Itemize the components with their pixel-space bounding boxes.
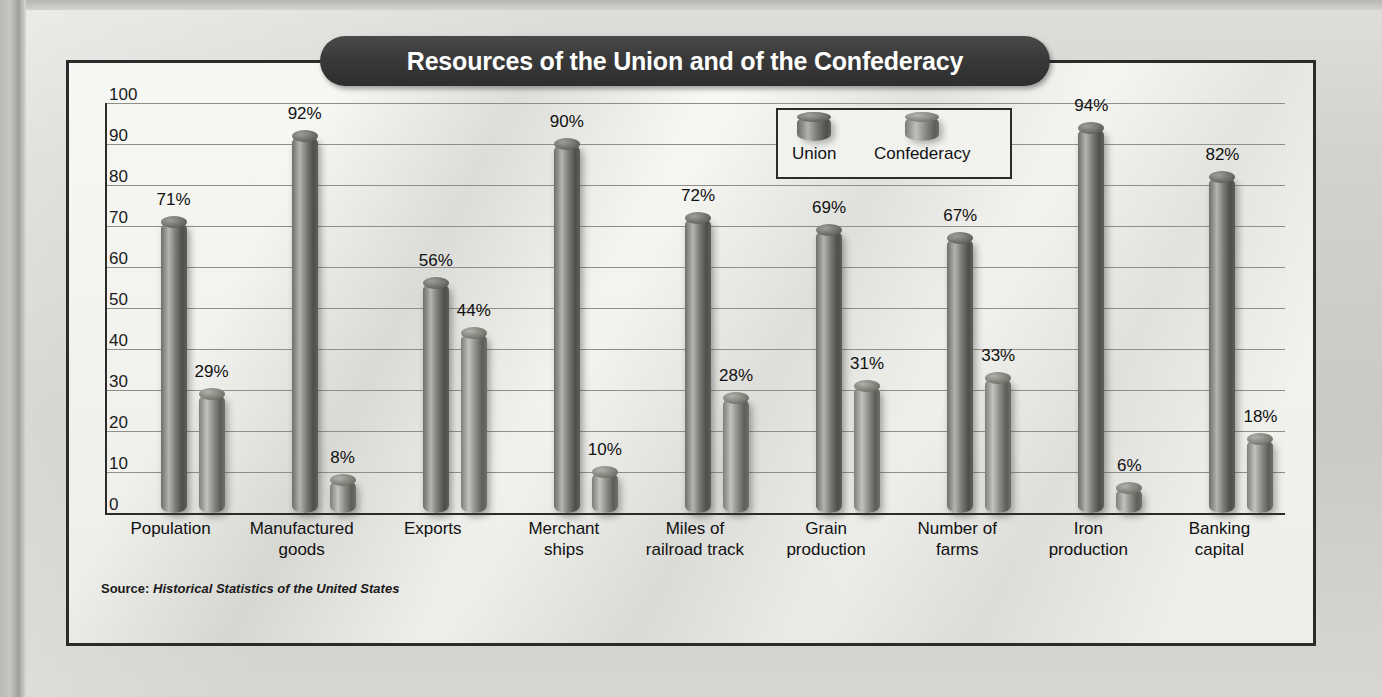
bar-confederacy — [461, 333, 487, 513]
bar-confederacy — [723, 398, 749, 513]
bar-cap — [592, 466, 618, 478]
category-label: Miles ofrailroad track — [619, 518, 770, 561]
bar-value-label: 6% — [1117, 456, 1142, 476]
bar-cap — [199, 388, 225, 400]
bar-cap — [461, 327, 487, 339]
bar-cap — [723, 392, 749, 404]
category-label-line: Number of — [882, 518, 1033, 539]
category-label-line: production — [751, 539, 902, 560]
bar-union — [554, 144, 580, 513]
category-label-line: Manufactured — [226, 518, 377, 539]
bar-cap — [292, 130, 318, 142]
bar-value-label: 82% — [1205, 145, 1239, 165]
bar-value-label: 29% — [195, 362, 229, 382]
bar-union — [1078, 128, 1104, 513]
bar-value-label: 72% — [681, 186, 715, 206]
bar-value-label: 94% — [1074, 96, 1108, 116]
bar-cap — [1247, 433, 1273, 445]
category-label-line: Exports — [357, 518, 508, 539]
legend-item-confederacy: Confederacy — [874, 116, 970, 164]
bar-cap — [985, 372, 1011, 384]
chart-title: Resources of the Union and of the Confed… — [320, 36, 1050, 86]
bar-column: 56% — [423, 103, 449, 513]
legend-swatch-union — [797, 116, 831, 141]
bar-value-label: 31% — [850, 354, 884, 374]
source-label: Source: — [101, 581, 149, 596]
bar-union — [423, 283, 449, 513]
bar-union — [816, 230, 842, 513]
bar-cap — [1116, 482, 1142, 494]
category-label-line: capital — [1144, 539, 1295, 560]
bar-cap — [161, 216, 187, 228]
bar-union — [1209, 177, 1235, 513]
bar-confederacy — [199, 394, 225, 513]
plot-area: 1009080706050403020100 71%29%92%8%56%44%… — [105, 103, 1285, 513]
bar-value-label: 44% — [457, 301, 491, 321]
category-label: Ironproduction — [1013, 518, 1164, 561]
source-value: Historical Statistics of the United Stat… — [153, 581, 399, 596]
category-label-line: Iron — [1013, 518, 1164, 539]
bar-value-label: 33% — [981, 346, 1015, 366]
source-note: Source: Historical Statistics of the Uni… — [101, 581, 399, 596]
category-label: Population — [95, 518, 246, 539]
bar-value-label: 90% — [550, 112, 584, 132]
gridline — [105, 513, 1285, 515]
category-label-line: Miles of — [619, 518, 770, 539]
category-label: Grainproduction — [751, 518, 902, 561]
bar-column: 8% — [330, 103, 356, 513]
bar-union — [292, 136, 318, 513]
category-label: Number offarms — [882, 518, 1033, 561]
category-label-line: Banking — [1144, 518, 1295, 539]
bar-union — [685, 218, 711, 513]
bar-value-label: 18% — [1243, 407, 1277, 427]
bar-confederacy — [592, 472, 618, 513]
category-label-line: ships — [488, 539, 639, 560]
bar-column: 29% — [199, 103, 225, 513]
bar-column: 18% — [1247, 103, 1273, 513]
bar-cap — [947, 232, 973, 244]
page-edge-left — [0, 0, 26, 697]
category-label-line: railroad track — [619, 539, 770, 560]
bar-column: 94% — [1078, 103, 1104, 513]
bar-cap — [1209, 171, 1235, 183]
legend-label: Union — [792, 144, 836, 164]
bar-value-label: 92% — [288, 104, 322, 124]
category-label-line: Population — [95, 518, 246, 539]
bar-value-label: 10% — [588, 440, 622, 460]
page-edge-top — [0, 0, 1382, 10]
category-axis-labels: PopulationManufacturedgoodsExportsMercha… — [105, 518, 1285, 580]
bar-column: 82% — [1209, 103, 1235, 513]
category-label: Exports — [357, 518, 508, 539]
bar-column: 71% — [161, 103, 187, 513]
category-label-line: goods — [226, 539, 377, 560]
bar-cap — [816, 224, 842, 236]
bar-cap — [330, 474, 356, 486]
bar-column: 72% — [685, 103, 711, 513]
chart-panel: 1009080706050403020100 71%29%92%8%56%44%… — [66, 60, 1316, 646]
bar-column: 92% — [292, 103, 318, 513]
bar-value-label: 56% — [419, 251, 453, 271]
legend-label: Confederacy — [874, 144, 970, 164]
chart-legend: UnionConfederacy — [776, 108, 1012, 179]
bar-value-label: 8% — [330, 448, 355, 468]
bar-confederacy — [330, 480, 356, 513]
bar-cap — [854, 380, 880, 392]
category-label: Bankingcapital — [1144, 518, 1295, 561]
bar-cap — [554, 138, 580, 150]
bar-column: 44% — [461, 103, 487, 513]
y-axis-tick-label: 100 — [109, 86, 137, 103]
bar-column: 90% — [554, 103, 580, 513]
bar-column: 6% — [1116, 103, 1142, 513]
bar-cap — [685, 212, 711, 224]
bar-confederacy — [985, 378, 1011, 513]
category-label: Merchantships — [488, 518, 639, 561]
legend-swatch-confederacy — [905, 116, 939, 141]
bar-union — [161, 222, 187, 513]
bar-value-label: 28% — [719, 366, 753, 386]
bar-value-label: 69% — [812, 198, 846, 218]
category-label-line: farms — [882, 539, 1033, 560]
bar-confederacy — [1247, 439, 1273, 513]
bar-column: 10% — [592, 103, 618, 513]
category-label-line: Merchant — [488, 518, 639, 539]
category-label-line: Grain — [751, 518, 902, 539]
